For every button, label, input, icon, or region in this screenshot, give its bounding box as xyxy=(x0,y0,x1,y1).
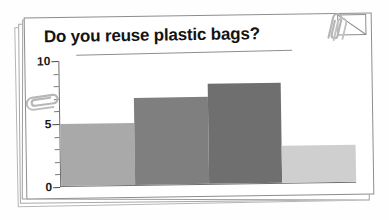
y-tick-minor xyxy=(54,74,59,75)
y-tick-minor xyxy=(55,149,60,150)
y-axis-label: 5 xyxy=(44,118,51,130)
bar-always[interactable] xyxy=(60,122,135,186)
y-axis-label: 10 xyxy=(37,55,51,67)
chart-content: Do you reuse plastic bags? 0510 alwaysus… xyxy=(24,12,375,199)
bar-sometimes[interactable] xyxy=(207,83,282,184)
y-tick-minor xyxy=(54,86,59,87)
paperclip-icon-top-right xyxy=(320,12,350,49)
bar-series xyxy=(59,57,356,186)
bar-never[interactable] xyxy=(282,144,356,183)
y-tick-minor xyxy=(54,137,59,138)
title-underline xyxy=(76,50,292,56)
y-tick-major xyxy=(52,124,59,125)
page-title: Do you reuse plastic bags? xyxy=(44,24,260,47)
y-tick-minor xyxy=(55,174,60,175)
y-tick-major xyxy=(53,187,60,188)
bar-usually[interactable] xyxy=(134,96,209,185)
y-tick-major xyxy=(51,61,58,62)
y-axis-label: 0 xyxy=(45,181,52,193)
y-tick-minor xyxy=(55,162,60,163)
screenshot-stage: Do you reuse plastic bags? 0510 alwaysus… xyxy=(0,0,389,220)
bar-chart-plot: 0510 alwaysusuallysometimesnever xyxy=(58,57,356,187)
